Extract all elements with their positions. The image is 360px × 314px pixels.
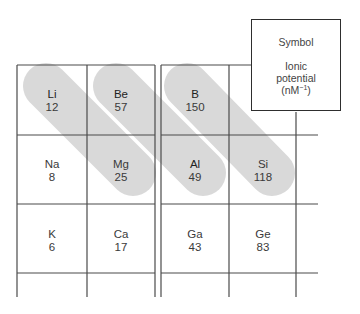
legend-unit: (nM−1) [252, 84, 340, 96]
ionic-potential-value: 83 [228, 241, 298, 254]
ionic-potential-value: 25 [86, 171, 156, 184]
cell-b: B 150 [160, 88, 230, 114]
ionic-potential-value: 6 [17, 241, 87, 254]
cell-mg: Mg 25 [86, 158, 156, 184]
legend-symbol-label: Symbol [252, 36, 340, 48]
element-symbol: Mg [86, 158, 156, 171]
element-symbol: Be [86, 88, 156, 101]
ionic-potential-value: 57 [86, 101, 156, 114]
cell-ga: Ga 43 [160, 228, 230, 254]
cell-ge: Ge 83 [228, 228, 298, 254]
cell-ca: Ca 17 [86, 228, 156, 254]
legend-ionic-label-line1: Ionic [252, 60, 340, 72]
ionic-potential-value: 8 [17, 171, 87, 184]
element-symbol: Na [17, 158, 87, 171]
element-symbol: K [17, 228, 87, 241]
cell-na: Na 8 [17, 158, 87, 184]
element-symbol: Ga [160, 228, 230, 241]
cell-k: K 6 [17, 228, 87, 254]
legend-ionic-label-line2: potential [252, 72, 340, 84]
legend-unit-close: ) [307, 84, 311, 96]
cell-li: Li 12 [17, 88, 87, 114]
cell-si: Si 118 [228, 158, 298, 184]
ionic-potential-value: 17 [86, 241, 156, 254]
legend-key: Symbol Ionic potential (nM−1) [251, 19, 341, 111]
element-symbol: Ca [86, 228, 156, 241]
element-symbol: Ge [228, 228, 298, 241]
element-symbol: B [160, 88, 230, 101]
cell-al: Al 49 [160, 158, 230, 184]
ionic-potential-value: 150 [160, 101, 230, 114]
cell-be: Be 57 [86, 88, 156, 114]
legend-unit-base: (nM [281, 84, 299, 96]
element-symbol: Si [228, 158, 298, 171]
ionic-potential-value: 12 [17, 101, 87, 114]
element-symbol: Li [17, 88, 87, 101]
ionic-potential-value: 43 [160, 241, 230, 254]
ionic-potential-value: 49 [160, 171, 230, 184]
ionic-potential-value: 118 [228, 171, 298, 184]
element-symbol: Al [160, 158, 230, 171]
